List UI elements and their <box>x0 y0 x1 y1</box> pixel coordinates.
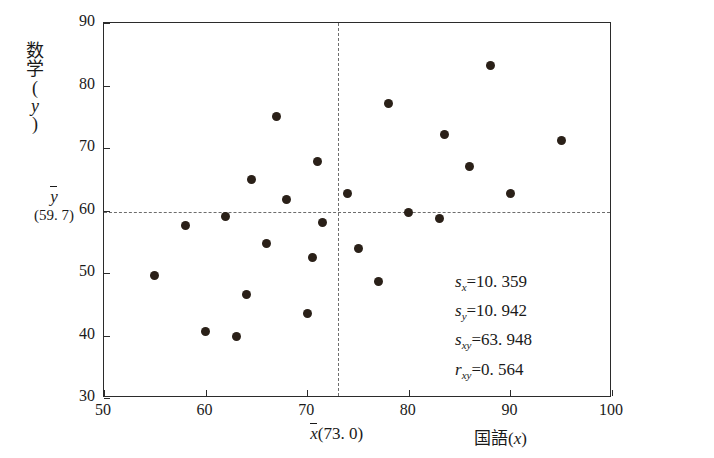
stat-sx: sx=10. 359 <box>455 268 532 297</box>
y-tick-mark <box>104 148 110 149</box>
stat-value: =10. 942 <box>467 301 528 320</box>
statistics-annotations: sx=10. 359sy=10. 942sxy=63. 948rxy=0. 56… <box>455 268 532 385</box>
data-point <box>232 332 241 341</box>
y-tick-label: 60 <box>55 200 95 218</box>
stat-value: =10. 359 <box>467 272 528 291</box>
data-point <box>242 290 251 299</box>
x-tick-label: 90 <box>479 401 539 419</box>
data-point <box>354 244 363 253</box>
data-point <box>303 309 312 318</box>
x-mean-value: (73. 0) <box>318 424 363 443</box>
y-tick-mark <box>104 336 110 337</box>
y-tick-mark <box>104 86 110 87</box>
data-point <box>221 212 230 221</box>
data-point <box>318 218 327 227</box>
x-tick-mark <box>409 390 410 396</box>
data-point <box>506 189 515 198</box>
chart-root: 数 学 ( y ) y (59. 7) x(73. 0) 国語(x) sx=10… <box>0 0 714 458</box>
stat-value: =0. 564 <box>471 360 523 379</box>
y-axis-title-char-3: y <box>22 97 48 115</box>
stat-value: =63. 948 <box>471 330 532 349</box>
data-point <box>272 112 281 121</box>
x-tick-mark <box>206 390 207 396</box>
x-tick-label: 60 <box>175 401 235 419</box>
y-axis-title-char-2: ( <box>22 79 48 97</box>
data-point <box>486 61 495 70</box>
x-mean-label: x(73. 0) <box>267 424 407 444</box>
x-tick-label: 80 <box>378 401 438 419</box>
y-tick-label: 50 <box>55 262 95 280</box>
x-tick-mark <box>104 390 105 396</box>
y-tick-mark <box>104 398 110 399</box>
stat-symbol: s <box>455 301 462 320</box>
y-axis-title-char-0: 数 <box>22 42 48 60</box>
data-point <box>150 271 159 280</box>
stat-sxy: sxy=63. 948 <box>455 326 532 355</box>
data-point <box>435 214 444 223</box>
top-caption-strip <box>120 0 590 14</box>
data-point <box>201 327 210 336</box>
x-tick-mark <box>307 390 308 396</box>
y-tick-label: 80 <box>55 75 95 93</box>
x-tick-label: 100 <box>581 401 641 419</box>
y-axis-title-char-1: 学 <box>22 60 48 78</box>
y-tick-label: 70 <box>55 137 95 155</box>
data-point <box>262 239 271 248</box>
data-point <box>440 130 449 139</box>
stat-symbol: r <box>455 360 462 379</box>
y-tick-label: 40 <box>55 325 95 343</box>
plot-inner <box>104 23 610 396</box>
y-tick-mark <box>104 211 110 212</box>
stat-sy: sy=10. 942 <box>455 297 532 326</box>
x-axis-title-main: 国語 <box>474 429 508 448</box>
y-tick-label: 90 <box>55 12 95 30</box>
y-tick-mark <box>104 273 110 274</box>
y-tick-label: 30 <box>55 387 95 405</box>
stat-subscript: xy <box>462 369 472 381</box>
data-point <box>404 208 413 217</box>
data-point <box>313 157 322 166</box>
x-tick-label: 70 <box>276 401 336 419</box>
x-mean-var: x <box>310 424 318 443</box>
stat-symbol: s <box>455 330 462 349</box>
plot-area <box>103 22 611 397</box>
x-tick-mark <box>612 390 613 396</box>
y-tick-mark <box>104 23 110 24</box>
data-point <box>308 253 317 262</box>
x-tick-mark <box>510 390 511 396</box>
y-mean-dashed-line <box>104 212 610 213</box>
y-axis-title: 数 学 ( y ) <box>22 42 48 134</box>
x-axis-title: 国語(x) <box>474 424 527 449</box>
data-point <box>282 195 291 204</box>
data-point <box>247 175 256 184</box>
data-point <box>465 162 474 171</box>
stat-subscript: xy <box>462 340 472 352</box>
x-mean-dashed-line <box>338 23 339 396</box>
data-point <box>374 277 383 286</box>
data-point <box>181 221 190 230</box>
data-point <box>384 99 393 108</box>
data-point <box>343 189 352 198</box>
y-axis-title-char-4: ) <box>22 115 48 133</box>
stat-symbol: s <box>455 272 462 291</box>
x-axis-title-close: ) <box>521 429 527 448</box>
data-point <box>557 136 566 145</box>
stat-rxy: rxy=0. 564 <box>455 356 532 385</box>
